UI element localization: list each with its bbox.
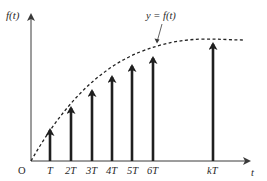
curve-label: y = f(t) (145, 10, 176, 22)
sampled-function-diagram: f(t) y = f(t) O t T 2T 3T 4T 5T 6T kT (0, 0, 267, 181)
y-axis-label: f(t) (6, 9, 20, 22)
tick-label-2T: 2T (65, 165, 77, 176)
tick-label-4T: 4T (106, 165, 118, 176)
sample-impulses (50, 44, 213, 161)
tick-label-6T: 6T (147, 165, 159, 176)
tick-label-T: T (47, 165, 54, 176)
tick-label-kT: kT (207, 165, 219, 176)
origin-label: O (18, 165, 26, 176)
x-tick-labels: T 2T 3T 4T 5T 6T kT (47, 165, 219, 176)
curve-label-pointer-head (155, 39, 160, 44)
x-axis-label: t (251, 167, 255, 178)
tick-label-5T: 5T (127, 165, 139, 176)
tick-label-3T: 3T (85, 165, 98, 176)
